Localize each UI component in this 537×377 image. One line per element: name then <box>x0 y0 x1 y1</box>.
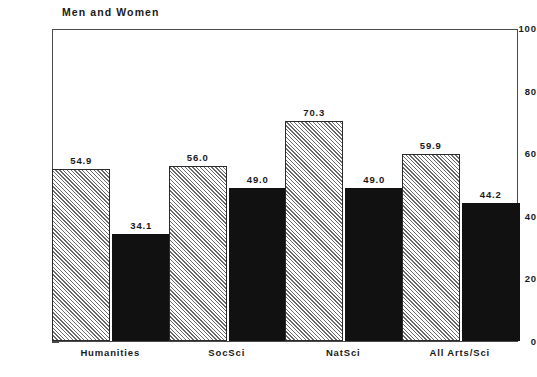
bar-value-label: 70.3 <box>303 107 325 118</box>
y-tick-mark <box>52 342 59 343</box>
bar: 44.2 <box>462 203 520 341</box>
bar: 54.9 <box>52 169 110 341</box>
bar: 59.9 <box>402 154 460 341</box>
bar-chart: Men and Women Percent 020406080100 Resea… <box>0 0 537 377</box>
chart-title: Men and Women <box>62 6 160 18</box>
bar: 49.0 <box>345 188 403 341</box>
bar-value-label: 56.0 <box>187 152 209 163</box>
bar: 56.0 <box>169 166 227 341</box>
bar-value-label: 44.2 <box>480 189 502 200</box>
x-tick-label: SocSci <box>208 347 245 358</box>
bars-layer: 54.934.156.049.070.349.059.944.2 <box>53 30 517 341</box>
bar-value-label: 59.9 <box>420 140 442 151</box>
x-tick-label: NatSci <box>326 347 361 358</box>
bar: 70.3 <box>285 121 343 341</box>
bar-value-label: 34.1 <box>130 220 152 231</box>
plot-area: 54.934.156.049.070.349.059.944.2 <box>52 29 518 342</box>
bar: 34.1 <box>112 234 170 341</box>
x-tick-label: All Arts/Sci <box>429 347 490 358</box>
bar: 49.0 <box>229 188 287 341</box>
x-tick-label: Humanities <box>80 347 140 358</box>
bar-value-label: 54.9 <box>70 155 92 166</box>
bar-value-label: 49.0 <box>247 174 269 185</box>
bar-value-label: 49.0 <box>363 174 385 185</box>
